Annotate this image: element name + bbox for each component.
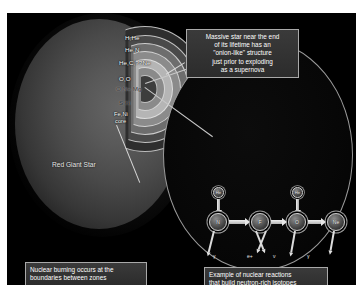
- emission-arrow-gamma-1: [208, 231, 215, 253]
- nucleus-ne: Ne: [327, 213, 345, 231]
- nucleus-he-capture-2: He: [292, 187, 303, 198]
- callout-nuclear-burning: Nuclear burning occurs at the boundaries…: [25, 262, 147, 285]
- shell-label-s-si: S,Si: [119, 99, 131, 106]
- emission-arrow-gamma-3: [330, 231, 335, 251]
- reaction-arrow-1: [229, 220, 245, 224]
- red-giant-star-label: Red Giant Star: [52, 161, 96, 168]
- nucleus-he-capture-1: He: [213, 187, 224, 198]
- callout-massive-star: Massive star near the end of its lifetim…: [186, 29, 299, 78]
- emission-label-neutrino: ν: [273, 253, 276, 259]
- shell-label-o-o: O,O: [119, 75, 131, 82]
- callout-top-line-5: as a supernova: [191, 66, 294, 74]
- nucleus-f: F: [251, 213, 269, 231]
- emission-label-gamma-1: γ: [213, 253, 216, 259]
- nucleus-o: O: [288, 213, 306, 231]
- shell-label-o-ne-mg: O,Ne,Mg: [116, 85, 141, 92]
- capture-arrow-1: [217, 199, 220, 210]
- capture-arrow-2: [296, 199, 299, 210]
- reaction-chain-diagram: He He N F O Ne γ e+ ν γ: [203, 185, 351, 263]
- reaction-arrow-3: [308, 220, 321, 224]
- callout-bl-line-1: Nuclear burning occurs at the: [30, 266, 142, 274]
- reaction-arrow-2: [271, 220, 282, 224]
- emission-label-positron: e+: [247, 253, 253, 259]
- emission-label-gamma-2: γ: [307, 253, 310, 259]
- callout-example-reactions: Example of nuclear reactions that build …: [204, 267, 328, 285]
- callout-bl-line-2: boundaries between zones: [30, 274, 142, 282]
- emission-arrow-gamma-2: [290, 231, 296, 253]
- shell-label-h-he: H,He: [125, 34, 140, 41]
- callout-top-line-3: "onion-like" structure: [191, 49, 294, 57]
- figure-canvas: H,He He,N He,C,??Ne O,O O,Ne,Mg S,Si Fe,…: [7, 13, 356, 285]
- shell-label-fe-ni: Fe,Ni: [114, 111, 128, 118]
- callout-top-line-2: of its lifetime has an: [191, 41, 294, 49]
- callout-br-line-2: that build neutron-rich isotopes: [209, 279, 323, 285]
- callout-br-line-1: Example of nuclear reactions: [209, 271, 323, 279]
- shell-label-he-c-ne: He,C,??Ne: [119, 59, 151, 66]
- callout-top-line-1: Massive star near the end: [191, 33, 294, 41]
- shell-label-he-n: He,N: [125, 46, 140, 53]
- callout-top-line-4: just prior to exploding: [191, 58, 294, 66]
- nucleus-n: N: [209, 213, 227, 231]
